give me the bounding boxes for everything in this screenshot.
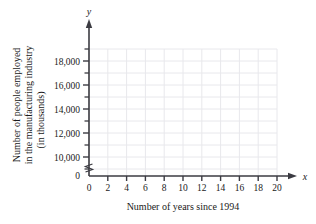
- coordinate-grid-chart: 18,000 16,000 14,000 12,000 10,000 0 0 2…: [0, 0, 316, 224]
- x-tick-label: 10: [178, 183, 188, 193]
- y-axis-variable-label: y: [86, 6, 92, 17]
- y-tick-label: 12,000: [54, 129, 80, 139]
- y-tick-label: 18,000: [54, 57, 80, 67]
- y-tick-label: 14,000: [54, 105, 80, 115]
- y-tick-label: 10,000: [54, 153, 80, 163]
- x-tick-label: 16: [235, 183, 245, 193]
- x-tick-label: 0: [87, 183, 92, 193]
- chart-background: [0, 0, 316, 224]
- y-tick-label: 16,000: [54, 81, 80, 91]
- y-axis-title-line-3: (in thousands): [35, 92, 47, 149]
- x-tick-label: 20: [272, 183, 282, 193]
- x-axis-title: Number of years since 1994: [127, 201, 240, 212]
- x-tick-label: 12: [197, 183, 207, 193]
- origin-label: 0: [75, 171, 80, 181]
- y-axis-title-line-2: in the manufacturing industry: [23, 46, 34, 165]
- x-tick-label: 8: [162, 183, 167, 193]
- x-tick-label: 18: [253, 183, 263, 193]
- chart-figure: 18,000 16,000 14,000 12,000 10,000 0 0 2…: [0, 0, 316, 224]
- x-tick-label: 6: [143, 183, 148, 193]
- x-tick-label: 14: [216, 183, 226, 193]
- x-tick-label: 4: [124, 183, 129, 193]
- y-axis-title-line-1: Number of people employed: [11, 48, 22, 163]
- x-tick-label: 2: [105, 183, 110, 193]
- x-axis-variable-label: x: [302, 171, 308, 182]
